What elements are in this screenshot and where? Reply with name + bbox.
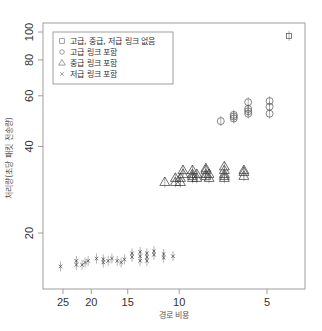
y-tick-label: 40 [23,140,35,152]
y-tick-label: 60 [23,90,35,102]
x-tick-label: 5 [264,296,270,308]
legend-item-label: 고급 링크 포함 [70,47,118,57]
y-tick-label: 100 [23,23,35,41]
scatter-chart: 20406080100 252015105 고급, 중급, 저급 링크 없음고급… [0,0,322,331]
x-tick-label: 25 [57,296,69,308]
x-axis-title: 경로 비용 [159,310,190,320]
y-axis: 20406080100 [23,23,43,239]
x-tick-label: 10 [173,296,185,308]
x-axis: 252015105 [57,289,270,308]
y-tick-label: 20 [23,227,35,239]
legend-item-label: 중급 링크 포함 [70,58,118,68]
legend-item-label: 고급, 중급, 저급 링크 없음 [70,36,155,46]
legend-item-label: 저급 링크 포함 [70,69,118,79]
x-tick-label: 15 [122,296,134,308]
y-axis-title: 처리량(초당 패킷 전송량) [4,117,14,198]
x-tick-label: 20 [85,296,97,308]
y-tick-label: 80 [23,54,35,66]
legend: 고급, 중급, 저급 링크 없음고급 링크 포함중급 링크 포함저급 링크 포함 [53,32,173,84]
